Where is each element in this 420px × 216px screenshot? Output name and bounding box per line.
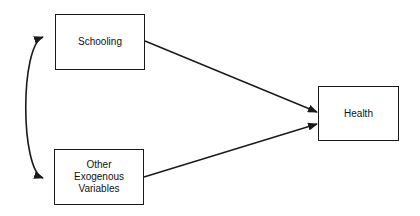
node-schooling-label: Schooling — [78, 36, 122, 48]
node-other-label: Other Exogenous Variables — [74, 159, 124, 195]
curved-double-arrow — [26, 37, 43, 178]
arrow-schooling-to-health — [145, 41, 317, 112]
node-other-exogenous-variables: Other Exogenous Variables — [54, 149, 144, 205]
node-health: Health — [318, 86, 399, 141]
arrow-other-to-health — [144, 124, 317, 177]
node-schooling: Schooling — [55, 14, 145, 70]
node-health-label: Health — [344, 108, 373, 120]
